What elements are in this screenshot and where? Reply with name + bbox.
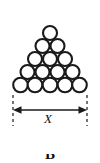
stack-row-5 (13, 78, 87, 93)
circle (58, 78, 73, 93)
circle (28, 78, 43, 93)
circle (13, 78, 28, 93)
arrow-head-right-icon (79, 106, 88, 114)
circle (51, 65, 65, 79)
circle (21, 65, 35, 79)
circle (66, 65, 80, 79)
figure-caption-strip: B (0, 154, 100, 163)
stack-row-2 (36, 39, 65, 53)
stack-row-3 (28, 52, 72, 66)
circle (36, 39, 50, 53)
stack-row-1 (43, 26, 57, 40)
ball-stack-diagram: X (0, 0, 100, 163)
figure-caption-label: B (0, 154, 100, 163)
circle (43, 52, 57, 66)
circle (28, 52, 42, 66)
circle (43, 26, 57, 40)
circle (72, 78, 87, 93)
arrow-head-left-icon (13, 106, 22, 114)
circle (36, 65, 50, 79)
figure-container: X B (0, 0, 100, 163)
circle (43, 78, 58, 93)
circle (51, 39, 65, 53)
circle (58, 52, 72, 66)
dimension-label-x: X (43, 111, 53, 126)
